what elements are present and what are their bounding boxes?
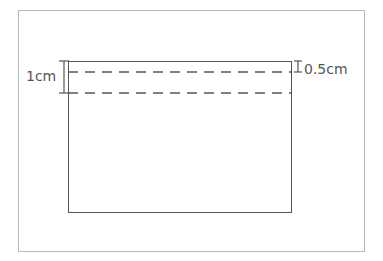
left-dimension-bracket bbox=[59, 61, 69, 93]
label-1cm: 1cm bbox=[26, 69, 56, 83]
label-0-5cm: 0.5cm bbox=[304, 62, 348, 76]
measurement-overlay bbox=[0, 0, 383, 261]
right-dimension-bracket bbox=[294, 61, 302, 72]
